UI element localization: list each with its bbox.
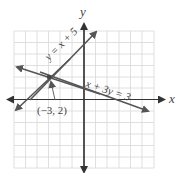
- intersection-point: [47, 75, 52, 80]
- point-label: (−3, 2): [37, 104, 67, 116]
- annotation-arrow: [51, 82, 55, 100]
- x-axis-label: x: [169, 93, 175, 105]
- y-axis-label: y: [80, 6, 86, 18]
